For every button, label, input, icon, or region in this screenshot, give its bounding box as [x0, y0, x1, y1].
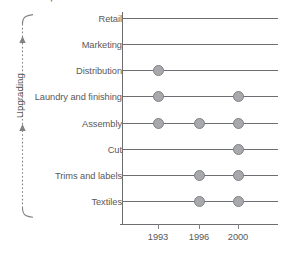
row-line-laundry-and-finishing [122, 96, 278, 97]
category-label-textiles: Textiles [91, 197, 122, 207]
x-tick-label-1993: 1993 [148, 232, 168, 242]
data-point-trims-and-labels-2000[interactable] [233, 170, 244, 181]
x-tick-1993 [158, 224, 159, 229]
data-point-textiles-1996[interactable] [194, 196, 205, 207]
x-tick-label-1996: 1996 [189, 232, 209, 242]
plot-area: 1993 1996 2000 [122, 12, 278, 224]
category-label-distribution: Distribution [76, 66, 122, 76]
category-label-retail: Retail [99, 14, 122, 24]
x-tick-label-2000: 2000 [228, 232, 248, 242]
category-label-marketing: Marketing [82, 40, 122, 50]
upgrading-axis: Upgrading [6, 12, 40, 218]
category-label-trims-and-labels: Trims and labels [55, 171, 122, 181]
data-point-laundry-and-finishing-2000[interactable] [233, 91, 244, 102]
row-line-retail [122, 18, 278, 19]
x-tick-1996 [199, 224, 200, 229]
data-point-laundry-and-finishing-1996[interactable] [153, 91, 164, 102]
row-line-marketing [122, 44, 278, 45]
data-point-assembly-2000[interactable] [233, 118, 244, 129]
chart-figure: Vietnam, Indices Upgrading Retail Market… [0, 0, 293, 254]
category-label-laundry-and-finishing: Laundry and finishing [35, 92, 122, 102]
row-line-distribution [122, 70, 278, 71]
row-line-cut [122, 149, 278, 150]
data-point-textiles-2000[interactable] [233, 196, 244, 207]
category-label-cut: Cut [108, 145, 122, 155]
data-point-assembly-1996[interactable] [194, 118, 205, 129]
x-tick-2000 [238, 224, 239, 229]
data-point-distribution-2000[interactable] [153, 65, 164, 76]
category-label-assembly: Assembly [82, 119, 122, 129]
data-point-cut-2000[interactable] [233, 144, 244, 155]
chart-title: Vietnam, Indices [14, 0, 87, 2]
data-point-assembly-1993[interactable] [153, 118, 164, 129]
data-point-trims-and-labels-1996[interactable] [194, 170, 205, 181]
upgrading-axis-label: Upgrading [14, 47, 25, 145]
